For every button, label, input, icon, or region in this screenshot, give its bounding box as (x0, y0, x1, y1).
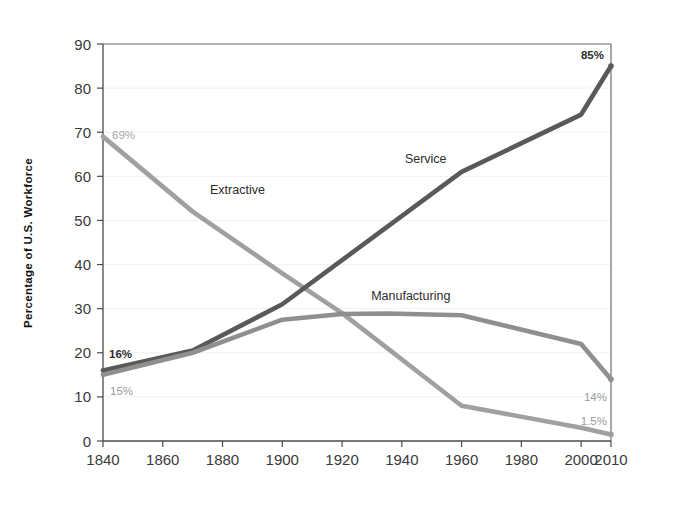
y-tick-label-40: 40 (74, 256, 91, 273)
series-endpoint-service (608, 63, 614, 69)
chart-container: 0102030405060708090 18401860188019001920… (0, 0, 682, 506)
series-line-extractive (103, 137, 611, 435)
series-startpoint-manufacturing (101, 372, 106, 377)
series-startpoint-extractive (101, 134, 106, 139)
y-tick-label-60: 60 (74, 168, 91, 185)
y-tick-label-90: 90 (74, 36, 91, 53)
y-axis-ticks: 0102030405060708090 (74, 36, 103, 450)
value-label-service-2010: 85% (581, 49, 604, 61)
x-tick-label-2010: 2010 (594, 451, 627, 468)
value-label-service-1840: 16% (109, 348, 132, 360)
series-endpoint-manufacturing (608, 376, 614, 382)
y-tick-label-10: 10 (74, 388, 91, 405)
x-tick-label-1900: 1900 (266, 451, 299, 468)
workforce-line-chart: 0102030405060708090 18401860188019001920… (0, 0, 682, 506)
x-tick-label-1880: 1880 (206, 451, 239, 468)
y-tick-label-80: 80 (74, 80, 91, 97)
x-tick-label-1960: 1960 (445, 451, 478, 468)
value-label-extractive-2010: 1.5% (581, 415, 607, 427)
plot-frame (103, 44, 611, 441)
value-annotations: 69%16%15%85%14%1.5% (109, 49, 607, 427)
x-tick-label-1860: 1860 (146, 451, 179, 468)
x-tick-label-1840: 1840 (86, 451, 119, 468)
series-label-extractive: Extractive (210, 183, 265, 197)
x-axis-ticks: 1840186018801900192019401960198020002010 (86, 441, 627, 468)
x-tick-label-1920: 1920 (325, 451, 358, 468)
series-label-manufacturing: Manufacturing (371, 289, 450, 303)
series-label-service: Service (405, 152, 447, 166)
y-tick-label-50: 50 (74, 212, 91, 229)
y-tick-label-30: 30 (74, 300, 91, 317)
value-label-manufacturing-2010: 14% (584, 391, 607, 403)
series-lines (101, 63, 614, 437)
value-label-extractive-1840: 69% (112, 129, 135, 141)
x-tick-label-1940: 1940 (385, 451, 418, 468)
x-tick-label-1980: 1980 (505, 451, 538, 468)
y-tick-label-20: 20 (74, 344, 91, 361)
series-endpoint-extractive (608, 432, 614, 438)
y-tick-label-0: 0 (83, 433, 91, 450)
series-labels: ExtractiveServiceManufacturing (210, 152, 450, 303)
y-axis-title: Percentage of U.S. Workforce (22, 158, 34, 328)
x-tick-label-2000: 2000 (564, 451, 597, 468)
y-tick-label-70: 70 (74, 124, 91, 141)
value-label-manufacturing-1840: 15% (110, 385, 133, 397)
